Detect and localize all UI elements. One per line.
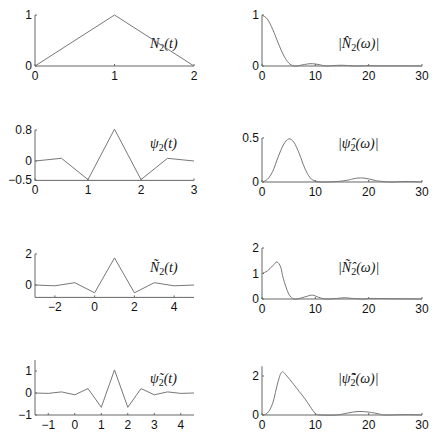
x-tick-label: 3 — [191, 183, 198, 197]
x-tick-label: 3 — [151, 418, 158, 432]
x-tick-label: −2 — [48, 300, 62, 314]
plot-N2_tilde_hat: 0102030012 — [252, 241, 429, 316]
y-tick-label: 0 — [252, 175, 259, 189]
plot-N2_tilde_t: −202402 — [25, 247, 194, 314]
y-tick-label: 0 — [252, 59, 259, 73]
y-tick-label: 1 — [25, 8, 32, 22]
y-tick-label: 0 — [25, 154, 32, 168]
x-tick-label: 2 — [191, 69, 198, 83]
x-tick-label: 2 — [138, 183, 145, 197]
x-tick-label: 1 — [98, 418, 105, 432]
x-tick-label: 20 — [362, 302, 376, 316]
figure-canvas: N2(t) |N̂2(ω)| ψ2(t) |ψ̂2(ω)| Ñ2(t) |Ñ̂2… — [0, 0, 442, 442]
y-tick-label: 2 — [25, 247, 32, 261]
y-tick-label: 1 — [25, 364, 32, 378]
x-tick-label: 0 — [259, 418, 266, 432]
x-tick-label: 30 — [415, 418, 429, 432]
y-tick-label: 0 — [25, 386, 32, 400]
x-tick-label: 30 — [415, 185, 429, 199]
y-tick-label: 0 — [25, 59, 32, 73]
label-psi2-tilde-hat: |ψ̃̂2(ω)| — [338, 371, 379, 388]
plot-psi2_hat: 010203000.5 — [242, 131, 429, 199]
x-tick-label: 0 — [259, 185, 266, 199]
x-tick-label: 0 — [91, 300, 98, 314]
label-N2-tilde-t: Ñ2(t) — [149, 259, 178, 277]
y-tick-label: −1 — [18, 408, 32, 422]
x-tick-label: 20 — [362, 418, 376, 432]
x-tick-label: 20 — [362, 185, 376, 199]
y-tick-label: 1 — [252, 8, 259, 22]
x-tick-label: 4 — [171, 300, 178, 314]
y-tick-label: 0 — [252, 408, 259, 422]
x-tick-label: 10 — [309, 418, 323, 432]
label-psi2-tilde-t: ψ̃2(t) — [150, 371, 177, 388]
x-tick-label: 30 — [415, 302, 429, 316]
x-tick-label: 1 — [85, 183, 92, 197]
x-tick-label: 4 — [177, 418, 184, 432]
y-tick-label: 2 — [252, 241, 259, 255]
x-tick-label: −1 — [41, 418, 55, 432]
x-tick-label: 30 — [415, 69, 429, 83]
plots-group: 012010102030010123−0.500.8010203000.5−20… — [8, 8, 429, 432]
x-tick-label: 0 — [259, 69, 266, 83]
y-tick-label: 0.5 — [242, 131, 259, 145]
x-tick-label: 0 — [71, 418, 78, 432]
label-N2-hat: |N̂2(ω)| — [338, 36, 379, 53]
label-psi2-hat: |ψ̂2(ω)| — [338, 136, 379, 153]
y-tick-label: 0 — [252, 292, 259, 306]
label-N2-t: N2(t) — [149, 36, 178, 53]
x-tick-label: 0 — [32, 183, 39, 197]
x-tick-label: 10 — [309, 69, 323, 83]
y-tick-label: 1 — [252, 267, 259, 281]
x-tick-label: 10 — [309, 302, 323, 316]
x-tick-label: 2 — [131, 300, 138, 314]
y-tick-label: 0.8 — [15, 123, 32, 137]
plot-labels: N2(t) |N̂2(ω)| ψ2(t) |ψ̂2(ω)| Ñ2(t) |Ñ̂2… — [149, 36, 379, 388]
x-tick-label: 2 — [124, 418, 131, 432]
y-tick-label: −0.5 — [8, 173, 32, 187]
x-tick-label: 1 — [111, 69, 118, 83]
x-tick-label: 0 — [32, 69, 39, 83]
y-tick-label: 0 — [25, 278, 32, 292]
y-tick-label: 2 — [252, 369, 259, 383]
plot-psi2_t: 0123−0.500.8 — [8, 123, 197, 197]
x-tick-label: 20 — [362, 69, 376, 83]
label-psi2-t: ψ2(t) — [150, 136, 177, 153]
x-tick-label: 10 — [309, 185, 323, 199]
label-N2-tilde-hat: |Ñ̂2(ω)| — [338, 259, 379, 277]
x-tick-label: 0 — [259, 302, 266, 316]
